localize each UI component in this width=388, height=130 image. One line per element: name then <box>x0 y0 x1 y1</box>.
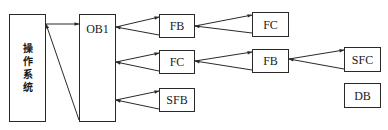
sfb-label: SFB <box>166 94 187 106</box>
arrow-ob1-to-sfb <box>116 91 159 100</box>
fb-middle-right-label: FB <box>263 55 278 67</box>
os-char-4: 统 <box>23 82 33 93</box>
node-sfb: SFB <box>159 88 195 112</box>
os-char-1: 操 <box>23 43 33 54</box>
fc-middle-label: FC <box>170 56 185 68</box>
node-fb-middle-right: FB <box>252 49 289 73</box>
sfc-label: SFC <box>352 54 373 66</box>
node-sfc: SFC <box>344 47 381 72</box>
arrow-fc-to-ob1 <box>116 62 159 71</box>
node-fc-middle: FC <box>159 50 195 74</box>
node-operating-system: 操 作 系 统 <box>9 14 46 122</box>
arrow-fb2-to-sfc <box>289 50 344 59</box>
arrow-sfc-to-fb2 <box>289 59 344 69</box>
ob1-label: OB1 <box>86 23 109 35</box>
db-label: DB <box>354 90 371 102</box>
arrow-fc-to-fb2 <box>195 52 252 61</box>
fb-top-label: FB <box>170 20 185 32</box>
arrow-ob1-to-os <box>46 24 79 120</box>
arrow-ob1-to-fb <box>116 17 159 27</box>
node-ob1: OB1 <box>79 14 116 122</box>
node-fb-top: FB <box>159 14 195 38</box>
os-char-3: 系 <box>23 69 33 80</box>
node-fc-top-right: FC <box>252 12 289 37</box>
arrow-sfb-to-ob1 <box>116 100 159 109</box>
arrow-ob1-to-fc <box>116 53 159 62</box>
arrow-fb-to-ob1 <box>116 27 159 35</box>
arrow-fc-to-fb <box>195 26 252 33</box>
os-char-2: 作 <box>23 56 33 67</box>
arrow-fb-to-fc <box>195 15 252 26</box>
program-structure-diagram: 操 作 系 统 OB1 FB FC SFB FC FB SFC DB <box>0 0 388 130</box>
node-db: DB <box>344 83 381 108</box>
arrow-fb2-to-fc <box>195 61 252 70</box>
fc-top-right-label: FC <box>263 19 278 31</box>
